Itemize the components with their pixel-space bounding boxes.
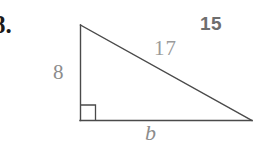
vertical-leg-length-label: 8	[53, 62, 64, 83]
base-length-label: b	[145, 122, 156, 144]
right-angle-icon	[81, 105, 96, 121]
geometry-figure: 8. 8 17 15 b	[0, 0, 261, 148]
answer-annotation: 15	[200, 14, 222, 33]
problem-number: 8.	[0, 12, 12, 37]
hypotenuse-length-label: 17	[154, 38, 177, 59]
